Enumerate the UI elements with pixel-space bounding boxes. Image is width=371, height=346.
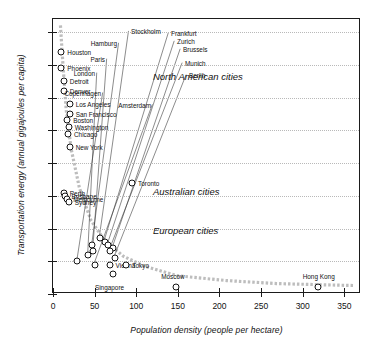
gridline xyxy=(53,32,359,33)
y-axis-tick xyxy=(48,196,57,197)
data-point-label: Frankfurt xyxy=(171,30,197,37)
x-axis-title: Population density (people per hectare) xyxy=(52,325,361,335)
x-axis-tick-label: 0 xyxy=(38,301,68,311)
data-point-label: Zurich xyxy=(177,38,195,45)
data-point-label: Munich xyxy=(185,60,206,67)
data-point-label: Hamburg xyxy=(91,40,117,47)
x-axis-tick xyxy=(344,288,345,297)
data-point-label: Tokyo xyxy=(132,261,149,268)
data-point-label: London xyxy=(74,70,95,77)
data-point xyxy=(64,130,71,137)
data-point xyxy=(314,284,321,291)
data-point xyxy=(129,179,136,186)
y-axis-tick xyxy=(48,32,57,33)
chart-root: Transportation energy (annual gigajoules… xyxy=(0,0,371,346)
data-point-label: Chicago xyxy=(74,130,97,137)
data-point-label: Sydney xyxy=(75,199,96,206)
data-point-label: Paris xyxy=(90,56,105,63)
data-point-label: Houston xyxy=(67,48,91,55)
x-axis-tick-label: 50 xyxy=(80,301,110,311)
x-axis-tick xyxy=(136,288,137,297)
gridline xyxy=(53,98,359,99)
data-point-label: New York xyxy=(76,143,103,150)
data-point xyxy=(173,284,180,291)
data-point xyxy=(66,143,73,150)
y-axis-tick xyxy=(48,130,57,131)
data-point-label: Los Angeles xyxy=(76,101,111,108)
y-axis-title: Transportation energy (annual gigajoules… xyxy=(16,30,26,280)
group-annotation: European cities xyxy=(153,225,218,236)
x-axis-tick-label: 150 xyxy=(163,301,193,311)
data-point-label: Detroit xyxy=(70,78,89,85)
gridline xyxy=(53,65,359,66)
data-point xyxy=(123,261,130,268)
y-axis-tick xyxy=(48,229,57,230)
plot-inner: 01020304050607080050100150200250300350Ho… xyxy=(53,19,359,292)
data-point-label: Hong Kong xyxy=(303,273,335,280)
data-point-label: Moscow xyxy=(161,273,184,280)
plot-area: 01020304050607080050100150200250300350Ho… xyxy=(52,18,360,293)
x-axis-tick-label: 200 xyxy=(204,301,234,311)
data-point xyxy=(109,271,116,278)
x-axis-tick-label: 250 xyxy=(246,301,276,311)
y-axis-tick xyxy=(48,163,57,164)
data-point xyxy=(58,65,65,72)
x-axis-tick xyxy=(261,288,262,297)
gridline xyxy=(53,261,359,262)
data-point xyxy=(74,258,81,265)
data-point-label: Copenhagen xyxy=(64,90,101,97)
data-point xyxy=(66,101,73,108)
y-axis-tick xyxy=(48,65,57,66)
data-point xyxy=(65,199,72,206)
y-axis-tick xyxy=(48,98,57,99)
x-axis-tick-label: 350 xyxy=(329,301,359,311)
x-axis-tick-label: 300 xyxy=(288,301,318,311)
data-point-label: Brussels xyxy=(183,46,208,53)
data-point xyxy=(58,48,65,55)
gridline xyxy=(53,163,359,164)
data-point-label: Stockholm xyxy=(131,28,161,35)
data-point xyxy=(106,261,113,268)
group-annotation: North American cities xyxy=(153,71,243,82)
data-point-label: Singapore xyxy=(95,284,124,291)
x-axis-tick xyxy=(219,288,220,297)
data-point xyxy=(91,261,98,268)
x-axis-tick-label: 100 xyxy=(121,301,151,311)
group-annotation: Australian cities xyxy=(153,186,220,197)
data-point xyxy=(60,78,67,85)
x-axis-tick xyxy=(303,288,304,297)
x-axis-tick xyxy=(53,288,54,297)
data-point-label: Amsterdam xyxy=(118,102,151,109)
data-point xyxy=(84,251,91,258)
y-axis-tick xyxy=(48,261,57,262)
